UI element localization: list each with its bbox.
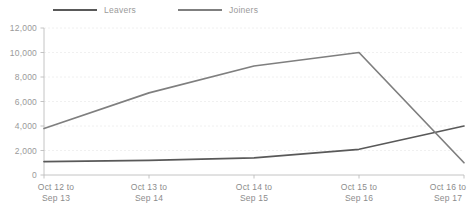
x-tick-label: Oct 16 toSep 17 (430, 182, 466, 203)
y-tick-label: 0 (32, 170, 37, 180)
x-tick-label: Oct 14 toSep 15 (236, 182, 272, 203)
legend-item-leavers[interactable]: Leavers (53, 0, 136, 20)
x-tick-label: Oct 15 toSep 16 (341, 182, 377, 203)
gridlines (44, 28, 464, 151)
y-tick-label: 10,000 (10, 48, 37, 58)
plot-area: 02,0004,0006,0008,00010,00012,000 Oct 12… (0, 18, 473, 221)
legend-label-joiners: Joiners (229, 6, 258, 15)
chart-canvas: 02,0004,0006,0008,00010,00012,000 Oct 12… (0, 18, 473, 221)
y-tick-label: 4,000 (15, 121, 37, 131)
legend-label-leavers: Leavers (104, 6, 136, 15)
series-line-joiners (44, 53, 464, 163)
y-tick-label: 6,000 (15, 97, 37, 107)
legend-item-joiners[interactable]: Joiners (178, 0, 258, 20)
y-axis: 02,0004,0006,0008,00010,00012,000 (10, 23, 44, 180)
line-chart: Leavers Joiners 02,0004,0006,0008,00010,… (0, 0, 473, 221)
legend-swatch-leavers (53, 9, 97, 11)
data-series (44, 53, 464, 163)
series-line-leavers (44, 126, 464, 162)
y-tick-label: 8,000 (15, 72, 37, 82)
y-tick-label: 12,000 (10, 23, 37, 33)
legend-swatch-joiners (178, 9, 222, 11)
chart-legend: Leavers Joiners (0, 0, 473, 20)
y-tick-label: 2,000 (15, 146, 37, 156)
x-axis: Oct 12 toSep 13Oct 13 toSep 14Oct 14 toS… (38, 175, 466, 203)
x-tick-label: Oct 13 toSep 14 (131, 182, 167, 203)
x-tick-label: Oct 12 toSep 13 (38, 182, 74, 203)
